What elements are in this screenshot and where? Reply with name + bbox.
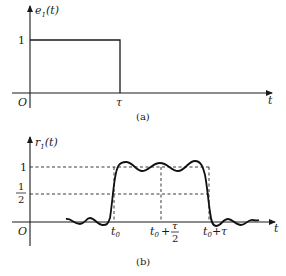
panel-b-level-one-label: 1 — [20, 161, 27, 174]
panel-b-origin-label: O — [18, 225, 27, 238]
panel-b-caption: (b) — [136, 256, 150, 267]
panel-b-half-denominator: 2 — [18, 194, 24, 205]
panel-b-end-label: t0+τ — [203, 225, 228, 239]
panel-b-mid-frac-numerator: τ — [172, 220, 178, 231]
panel-a-origin-label: O — [18, 96, 27, 109]
panel-a-level-one-label: 1 — [18, 34, 25, 47]
panel-b-half-numerator: 1 — [18, 181, 24, 192]
diagram-canvas: e1(t) 1 O τ t (a) r1(t) 1 1 2 O — [0, 0, 286, 276]
panel-b: r1(t) 1 1 2 O t0 t0+ τ 2 t0+τ t (b) — [12, 136, 279, 267]
panel-a-caption: (a) — [136, 111, 150, 122]
panel-a-rect-pulse — [30, 40, 120, 93]
panel-a-y-label: e1(t) — [35, 4, 59, 19]
panel-b-response-waveform — [66, 161, 259, 226]
panel-a: e1(t) 1 O τ t (a) — [12, 4, 273, 122]
panel-b-y-label: r1(t) — [35, 136, 58, 151]
panel-a-tau-label: τ — [116, 96, 123, 109]
panel-b-t0-label: t0 — [111, 225, 120, 239]
panel-b-mid-label: t0+ — [150, 225, 170, 239]
panel-b-x-label: t — [274, 222, 279, 235]
panel-b-mid-frac-denominator: 2 — [172, 233, 178, 244]
panel-a-x-label: t — [268, 94, 273, 107]
